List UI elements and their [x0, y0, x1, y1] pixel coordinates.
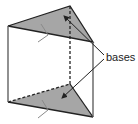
bases-label: bases [106, 51, 135, 64]
arrow-to-bottom-base [62, 59, 104, 98]
top-base [8, 6, 93, 42]
bottom-base [8, 84, 93, 117]
